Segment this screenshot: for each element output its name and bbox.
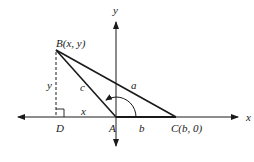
triangle-diagram: y x B(x, y) D A C(b, 0) a b c x y bbox=[0, 0, 254, 162]
point-d-label: D bbox=[55, 122, 64, 134]
x-axis-label: x bbox=[245, 111, 251, 123]
right-angle-mark bbox=[56, 109, 64, 117]
side-b-label: b bbox=[139, 122, 145, 134]
y-axis-label: y bbox=[112, 4, 118, 16]
point-b-label: B(x, y) bbox=[56, 37, 86, 50]
segment-y-label: y bbox=[46, 79, 52, 91]
side-c bbox=[56, 50, 116, 117]
point-a-label: A bbox=[108, 122, 116, 134]
point-c-label: C(b, 0) bbox=[171, 122, 203, 135]
side-a-label: a bbox=[131, 79, 137, 91]
segment-x-label: x bbox=[80, 105, 86, 117]
side-c-label: c bbox=[80, 81, 85, 93]
angle-arc-icon bbox=[106, 97, 136, 117]
